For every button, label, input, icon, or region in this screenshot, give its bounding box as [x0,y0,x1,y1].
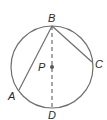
label-c: C [95,58,103,70]
chord-ba [19,26,52,90]
circle-diagram: B P C A D [0,0,107,120]
label-b: B [48,12,55,24]
center-point-p [50,65,54,69]
label-p: P [38,61,46,73]
label-a: A [7,90,15,102]
label-d: D [48,109,56,120]
